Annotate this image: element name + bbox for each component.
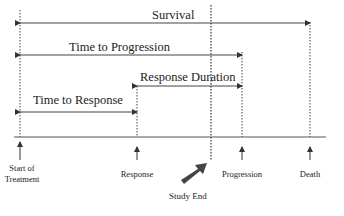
- survival-label: Survival: [152, 8, 194, 23]
- response-duration-label: Response Duration: [140, 70, 235, 85]
- start-of-treatment-label: Start of Treatment: [2, 163, 42, 185]
- study-end-arrow-icon: [181, 163, 207, 184]
- death-label: Death: [292, 169, 328, 180]
- progression-label: Progression: [217, 169, 267, 180]
- timeline-diagram: [0, 0, 344, 216]
- ttr-label: Time to Response: [33, 93, 123, 108]
- response-label: Response: [117, 169, 157, 180]
- ttp-label: Time to Progression: [69, 40, 170, 55]
- study-end-label: Study End: [160, 191, 216, 202]
